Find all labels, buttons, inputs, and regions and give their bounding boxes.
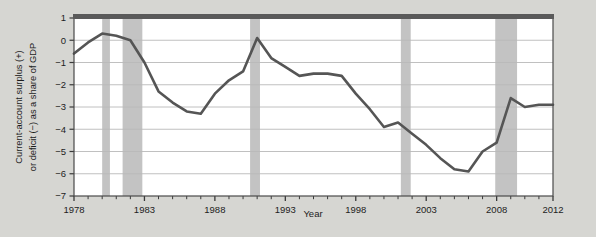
- chart-figure: 10−1−2−3−4−5−6−7 19781983198819931998200…: [0, 0, 596, 237]
- x-tick-label-1983: 1983: [134, 204, 155, 215]
- y-tick-label--1: −1: [55, 57, 66, 68]
- x-tick-label-2003: 2003: [416, 204, 437, 215]
- y-tick-label--4: −4: [55, 124, 66, 135]
- x-tick-label-2012: 2012: [542, 204, 563, 215]
- x-tick-label-1978: 1978: [63, 204, 84, 215]
- current-account-balance-line-chart: 10−1−2−3−4−5−6−7 19781983198819931998200…: [0, 0, 596, 237]
- y-axis-label-line2: or deficit (−) as a share of GDP: [28, 43, 38, 171]
- y-tick-label-0: 0: [61, 35, 66, 46]
- y-tick-label--5: −5: [55, 146, 66, 157]
- y-tick-label--6: −6: [55, 168, 66, 179]
- x-tick-label-1998: 1998: [345, 204, 366, 215]
- y-tick-label--2: −2: [55, 79, 66, 90]
- y-tick-label--7: −7: [55, 190, 66, 201]
- x-tick-label-2008: 2008: [486, 204, 507, 215]
- y-tick-label-1: 1: [61, 12, 66, 23]
- y-axis-label-line1: Current-account surplus (+): [14, 50, 24, 163]
- x-tick-label-1988: 1988: [204, 204, 225, 215]
- x-tick-label-1993: 1993: [275, 204, 296, 215]
- x-axis-label: Year: [303, 208, 322, 219]
- y-tick-label--3: −3: [55, 101, 66, 112]
